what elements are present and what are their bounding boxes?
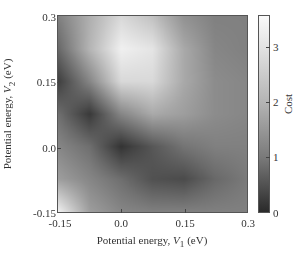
y-tick-mark [57,148,61,149]
colorbar-tick-mark [266,157,270,158]
y-tick-label: 0.0 [42,143,56,154]
colorbar-tick-mark [266,102,270,103]
colorbar-tick-label: 0 [273,208,279,219]
heatmap-canvas [58,16,247,212]
x-axis-label: Potential energy, V1 (eV) [97,234,208,249]
y-tick-label: -0.15 [33,208,56,219]
y-tick-label: 0.15 [37,77,56,88]
x-tick-mark [185,209,186,213]
x-tick-label: 0.3 [241,218,255,229]
y-tick-label: 0.3 [42,12,56,23]
y-axis-label: Potential energy, V2 (eV) [1,59,16,170]
x-tick-label: -0.15 [49,218,72,229]
colorbar-tick-label: 2 [273,97,279,108]
colorbar [258,15,270,213]
heatmap-plot-area [57,15,248,213]
x-tick-label: 0.15 [175,218,194,229]
x-tick-label: 0.0 [114,218,128,229]
y-tick-mark [57,82,61,83]
colorbar-tick-label: 3 [273,42,279,53]
x-tick-mark [121,209,122,213]
colorbar-tick-mark [266,47,270,48]
colorbar-label: Cost [282,94,294,114]
colorbar-tick-label: 1 [273,152,279,163]
